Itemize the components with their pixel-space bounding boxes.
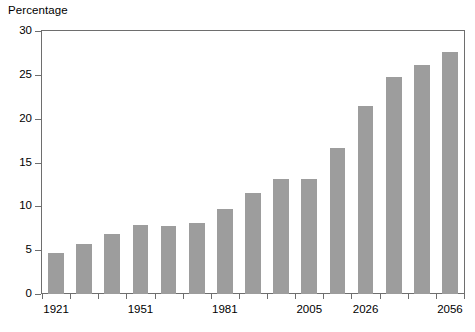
bar xyxy=(104,234,120,294)
y-axis-tick-mark xyxy=(35,206,41,207)
x-axis-tick-mark xyxy=(42,294,43,299)
y-axis-tick-label: 25 xyxy=(19,68,32,80)
y-axis-tick-mark xyxy=(35,294,41,295)
x-axis-tick-mark xyxy=(239,294,240,299)
x-axis-tick-mark xyxy=(183,294,184,299)
y-axis-tick-mark xyxy=(35,119,41,120)
bar xyxy=(48,253,64,294)
bar xyxy=(442,52,458,294)
y-axis-tick-label: 5 xyxy=(26,243,32,255)
y-axis-title: Percentage xyxy=(8,4,68,16)
x-axis-tick-mark xyxy=(155,294,156,299)
x-axis-tick-mark xyxy=(464,294,465,299)
y-axis-tick-label: 30 xyxy=(19,24,32,36)
bar xyxy=(358,106,374,294)
x-axis-tick-mark xyxy=(267,294,268,299)
y-axis-tick-mark xyxy=(35,31,41,32)
y-axis-tick-label: 10 xyxy=(19,199,32,211)
x-axis-tick-mark xyxy=(126,294,127,299)
y-axis-tick-label: 15 xyxy=(19,156,32,168)
bar xyxy=(386,77,402,294)
x-axis-tick-mark xyxy=(295,294,296,299)
bar xyxy=(133,225,149,294)
x-axis-tick-label: 2026 xyxy=(353,303,379,315)
y-axis-tick-mark xyxy=(35,75,41,76)
y-axis-tick-label: 20 xyxy=(19,112,32,124)
x-axis-tick-mark xyxy=(98,294,99,299)
bar xyxy=(76,244,92,294)
x-axis-tick-mark xyxy=(211,294,212,299)
y-axis-tick-mark xyxy=(35,250,41,251)
bars-layer xyxy=(42,31,464,294)
bar xyxy=(414,65,430,294)
x-axis-tick-mark xyxy=(323,294,324,299)
x-axis-tick-label: 2056 xyxy=(437,303,463,315)
x-axis-tick-mark xyxy=(380,294,381,299)
bar xyxy=(161,226,177,294)
bar xyxy=(217,209,233,294)
bar xyxy=(273,179,289,294)
y-axis-tick-mark xyxy=(35,163,41,164)
y-axis-tick-label: 0 xyxy=(26,287,32,299)
bar xyxy=(189,223,205,294)
x-axis-tick-label: 1981 xyxy=(212,303,238,315)
x-axis-tick-mark xyxy=(70,294,71,299)
bar xyxy=(301,179,317,294)
bar xyxy=(330,148,346,294)
x-axis-tick-label: 1951 xyxy=(128,303,154,315)
x-axis-tick-label: 1921 xyxy=(43,303,69,315)
x-axis-tick-mark xyxy=(408,294,409,299)
bar xyxy=(245,193,261,294)
x-axis-tick-mark xyxy=(436,294,437,299)
x-axis-tick-mark xyxy=(351,294,352,299)
x-axis-tick-label: 2005 xyxy=(296,303,322,315)
bar-chart: Percentage 051015202530 1921195119812005… xyxy=(0,0,475,332)
